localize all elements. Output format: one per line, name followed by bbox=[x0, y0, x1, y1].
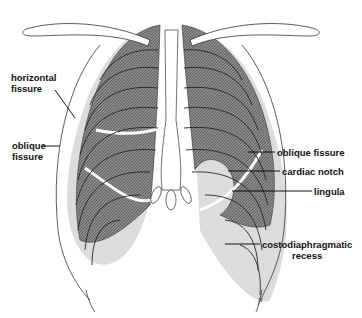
label-oblique-fissure-right: oblique fissure bbox=[277, 147, 345, 158]
lung-diagram: N horizontal fissure oblique fissure obl… bbox=[0, 0, 362, 318]
label-horizontal-fissure: horizontal fissure bbox=[11, 72, 56, 94]
costal-cartilage bbox=[179, 185, 194, 205]
artist-signature: N bbox=[257, 296, 263, 304]
sternum bbox=[161, 30, 181, 190]
xiphoid-process bbox=[166, 190, 176, 210]
label-oblique-fissure-left: oblique fissure bbox=[12, 140, 46, 162]
label-lingula: lingula bbox=[314, 186, 345, 197]
label-costodiaphragmatic-recess: costodiaphragmatic recess bbox=[262, 239, 352, 261]
label-cardiac-notch: cardiac notch bbox=[282, 166, 344, 177]
floating-rib-right bbox=[86, 290, 95, 312]
thorax-illustration: N bbox=[0, 0, 362, 318]
